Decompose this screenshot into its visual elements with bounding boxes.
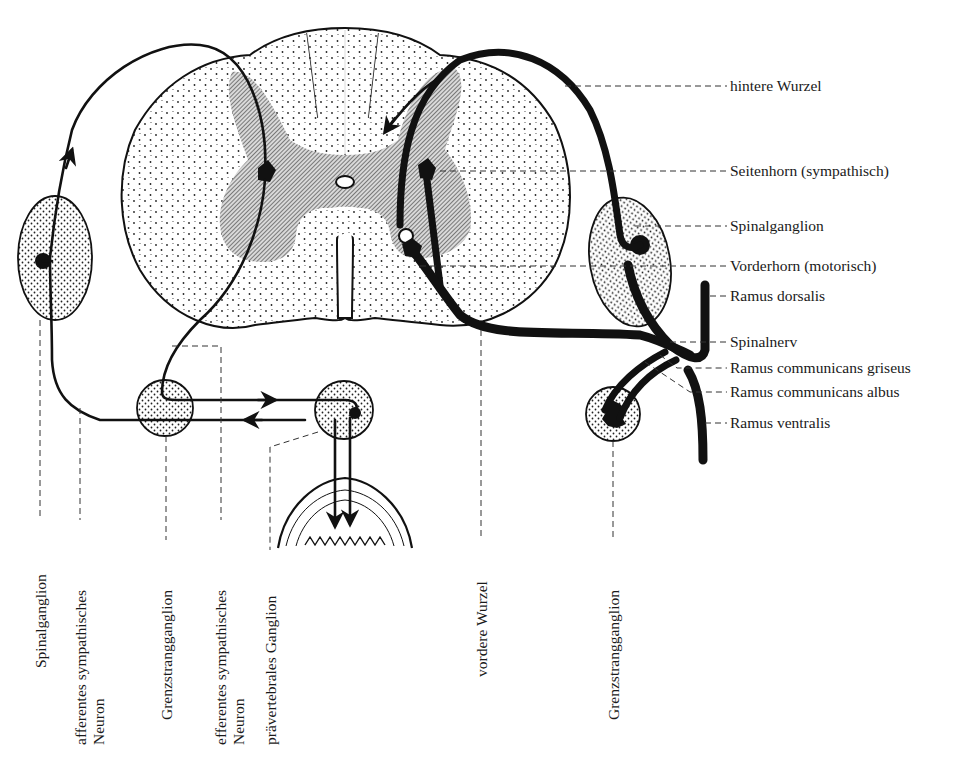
label-ramus-ventralis: Ramus ventralis xyxy=(730,414,830,431)
anterior-median-fissure xyxy=(337,228,353,318)
label-grenzstrangganglion-left: Grenzstrangganglion xyxy=(158,590,175,720)
grenzstrangganglion-left xyxy=(137,380,193,436)
bottom-labels: Spinalganglion afferentes sympathisches … xyxy=(32,574,622,745)
label-efferentes-neuron-line2: Neuron xyxy=(230,698,247,745)
label-vorderhorn: Vorderhorn (motorisch) xyxy=(730,257,877,275)
label-afferentes-neuron-line1: afferentes sympathisches xyxy=(72,590,89,745)
ramus-ventralis-fiber xyxy=(688,370,703,460)
label-seitenhorn: Seitenhorn (sympathisch) xyxy=(730,162,889,180)
label-hintere-wurzel: hintere Wurzel xyxy=(730,77,822,94)
label-afferentes-neuron-line2: Neuron xyxy=(90,698,107,745)
right-labels: hintere Wurzel Seitenhorn (sympathisch) … xyxy=(730,77,911,431)
label-ramus-dorsalis: Ramus dorsalis xyxy=(730,287,825,304)
spinal-reflex-diagram: hintere Wurzel Seitenhorn (sympathisch) … xyxy=(0,0,971,775)
label-spinalnerv: Spinalnerv xyxy=(730,333,797,350)
label-grenzstrangganglion-right: Grenzstrangganglion xyxy=(605,590,622,720)
target-organ xyxy=(278,478,412,548)
label-spinalganglion-left: Spinalganglion xyxy=(32,574,49,668)
central-canal xyxy=(336,176,354,188)
label-efferentes-neuron-line1: efferentes sympathisches xyxy=(212,590,229,745)
label-praevertebrales-ganglion: prävertebrales Ganglion xyxy=(262,595,279,745)
label-ramus-communicans-griseus: Ramus communicans griseus xyxy=(730,359,911,376)
praevertebrales-ganglion xyxy=(315,381,373,439)
spinal-cord xyxy=(122,28,570,328)
label-spinalganglion-right: Spinalganglion xyxy=(730,217,824,234)
label-vordere-wurzel: vordere Wurzel xyxy=(473,581,490,677)
label-ramus-communicans-albus: Ramus communicans albus xyxy=(730,383,900,400)
